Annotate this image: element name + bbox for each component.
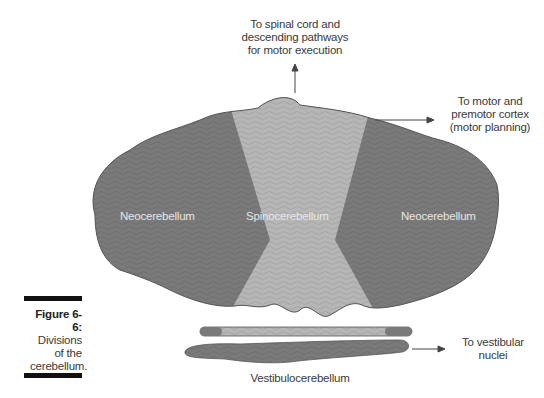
label-neocerebellum-left: Neocerebellum xyxy=(120,210,195,222)
caption-line: of the xyxy=(30,347,82,360)
annotation-bottom-right-line: To vestibular xyxy=(448,336,538,349)
annotation-top-line: for motor execution xyxy=(230,44,360,57)
caption-rule-top xyxy=(24,296,82,301)
annotation-bottom-right: To vestibular nuclei xyxy=(448,336,538,362)
flocculus-bar xyxy=(200,327,412,336)
label-neocerebellum-right: Neocerebellum xyxy=(401,210,476,222)
annotation-top: To spinal cord and descending pathways f… xyxy=(230,18,360,57)
arrow-right-bottom xyxy=(412,346,445,352)
annotation-bottom-right-line: nuclei xyxy=(448,349,538,362)
caption-line: Divisions xyxy=(30,334,82,347)
annotation-right: To motor and premotor cortex (motor plan… xyxy=(435,95,544,134)
annotation-right-line: (motor planning) xyxy=(435,121,544,134)
annotation-right-line: premotor cortex xyxy=(435,108,544,121)
annotation-top-line: descending pathways xyxy=(230,31,360,44)
vestibulocerebellum-region xyxy=(185,340,409,363)
figure-caption: Figure 6-6: Divisions of the cerebellum. xyxy=(30,308,82,373)
caption-line: cerebellum. xyxy=(30,360,82,373)
caption-rule-bottom xyxy=(24,373,82,378)
arrow-up xyxy=(292,64,298,93)
label-vestibulocerebellum: Vestibulocerebellum xyxy=(240,372,360,385)
annotation-top-line: To spinal cord and xyxy=(230,18,360,31)
label-spinocerebellum: Spinocerebellum xyxy=(246,210,329,222)
figure-number: Figure 6-6: xyxy=(30,308,82,334)
annotation-right-line: To motor and xyxy=(435,95,544,108)
